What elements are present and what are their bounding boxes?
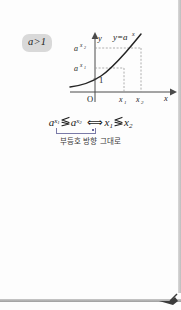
panel-a-greater-than-1: a>1 y=a x y (0, 8, 181, 150)
x-tick-1-a: x (118, 95, 123, 104)
formula-a-iff-icon: ⟺ (85, 116, 105, 128)
y-value-lower-a: a (74, 64, 78, 73)
y-axis-label-a: y (97, 33, 102, 43)
formula-a-brace (56, 128, 96, 134)
y-tick-one-a: 1 (99, 75, 103, 85)
page-edge-right (178, 0, 181, 293)
x-tick-1-a-sub: 1 (124, 100, 127, 105)
graph-increasing-exponential: y=a x y x O 1 a x 2 a x 1 x 1 x 2 (68, 30, 178, 112)
x-tick-2-a: x (135, 95, 140, 104)
condition-badge-a: a>1 (22, 34, 52, 52)
textbook-page: a>1 y=a x y (0, 0, 181, 310)
formula-a-relation-left-lessgtr-icon (60, 116, 71, 127)
x-tick-2-a-sub: 2 (141, 100, 144, 105)
curve-label-a: y=a (112, 32, 128, 42)
formula-a-right-exp-sub: 2 (79, 120, 82, 125)
y-value-upper-a: a (74, 44, 78, 53)
panel-b-between-0-and-1: 0<a<1 y=a x y (0, 155, 181, 290)
caption-a: 부등호 방향 그대로 (0, 135, 181, 146)
graph-a-svg: y=a x y x O 1 a x 2 a x 1 x 1 x 2 (68, 30, 178, 112)
y-value-upper-a-exponent: x (79, 42, 83, 48)
formula-a-var-right-sub: 2 (129, 122, 133, 130)
formula-a-brace-dot (92, 129, 94, 131)
origin-label-a: O (87, 94, 93, 104)
y-value-lower-a-exponent: x (79, 62, 83, 68)
formula-a-relation-right-lessgtr-icon (113, 116, 124, 127)
x-axis-label-a: x (163, 93, 168, 103)
page-corner-flip-icon (157, 292, 179, 308)
curve-label-a-exponent: x (131, 31, 135, 37)
y-value-lower-a-exponent-sub: 1 (84, 65, 86, 70)
y-value-upper-a-exponent-sub: 2 (84, 45, 86, 50)
page-edge-bottom (0, 299, 181, 302)
